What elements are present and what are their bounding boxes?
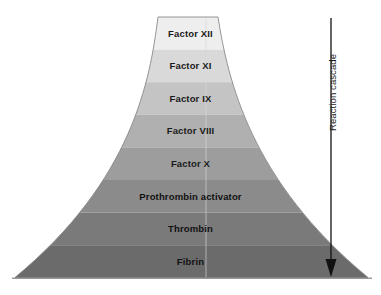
band-rect <box>0 213 381 246</box>
band-rect <box>0 245 381 278</box>
band-rect <box>0 50 381 83</box>
band-rect <box>0 17 381 50</box>
band-rect <box>0 82 381 115</box>
band-rect <box>0 147 381 180</box>
funnel-graphic <box>0 0 381 295</box>
diagram-canvas: Factor XII Factor XI Factor IX Factor VI… <box>0 0 381 295</box>
band-rect <box>0 180 381 213</box>
funnel-bands <box>0 17 381 279</box>
funnel-svg <box>0 0 381 295</box>
reaction-cascade-label: Reaction cascade <box>327 53 338 130</box>
band-rect <box>0 115 381 148</box>
